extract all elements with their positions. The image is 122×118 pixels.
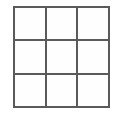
grid-cell[interactable] — [15, 75, 45, 106]
grid-cell[interactable] — [78, 41, 108, 72]
grid-cell[interactable] — [15, 8, 45, 39]
grid-cell[interactable] — [47, 75, 77, 106]
grid-cell[interactable] — [15, 41, 45, 72]
grid-diagram — [13, 6, 110, 108]
grid-cell[interactable] — [78, 75, 108, 106]
grid-cell[interactable] — [47, 41, 77, 72]
grid-cell[interactable] — [47, 8, 77, 39]
grid-cell[interactable] — [78, 8, 108, 39]
